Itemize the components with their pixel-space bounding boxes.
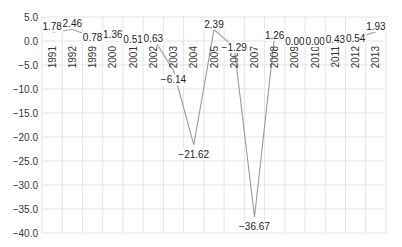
data-label: 1.36 [103, 29, 123, 40]
x-tick-label: 2010 [310, 46, 321, 69]
x-tick-label: 2001 [128, 46, 139, 69]
data-label: −21.62 [178, 149, 209, 160]
x-tick-label: 2002 [148, 46, 159, 69]
data-label: 2.46 [63, 18, 83, 29]
y-axis-ticks: 5.00.0−5.0−10.0−15.0−20.0−25.0−30.0−35.0… [13, 12, 39, 239]
data-label: 0.43 [326, 34, 346, 45]
x-tick-label: 2012 [350, 46, 361, 69]
x-tick-label: 2013 [370, 46, 381, 69]
y-tick-label: −40.0 [13, 228, 39, 239]
x-tick-label: 2009 [289, 46, 300, 69]
x-tick-label: 1992 [67, 46, 78, 69]
x-axis-ticks: 1991199219992000200120022003200420052006… [47, 46, 382, 69]
x-tick-label: 2008 [269, 46, 280, 69]
x-tick-label: 1999 [87, 46, 98, 69]
y-tick-label: −5.0 [18, 60, 38, 71]
data-label: 1.26 [265, 30, 285, 41]
data-label: 0.63 [144, 33, 164, 44]
x-tick-label: 2011 [330, 46, 341, 68]
y-tick-label: −20.0 [13, 132, 39, 143]
y-tick-label: 0.0 [24, 36, 38, 47]
data-label: 0.51 [123, 34, 143, 45]
y-tick-label: −10.0 [13, 84, 39, 95]
data-label: −36.67 [239, 221, 270, 232]
data-label: 1.93 [366, 21, 386, 32]
data-label: 0.54 [346, 33, 366, 44]
x-tick-label: 2003 [168, 46, 179, 69]
data-label: 0.78 [83, 32, 103, 43]
x-tick-label: 2005 [209, 46, 220, 69]
y-tick-label: 5.0 [24, 12, 38, 23]
data-label: −1.29 [222, 42, 248, 53]
x-tick-label: 1991 [47, 46, 58, 69]
x-tick-label: 2000 [107, 46, 118, 69]
x-tick-label: 2004 [188, 46, 199, 69]
y-tick-label: −25.0 [13, 156, 39, 167]
data-label: 1.78 [42, 21, 62, 32]
data-label: 0.00 [285, 36, 305, 47]
y-tick-label: −30.0 [13, 180, 39, 191]
data-label: 2.39 [204, 19, 224, 30]
data-label: 0.00 [305, 36, 325, 47]
y-tick-label: −15.0 [13, 108, 39, 119]
y-tick-label: −35.0 [13, 204, 39, 215]
data-label: −6.14 [161, 74, 187, 85]
line-chart: 5.00.0−5.0−10.0−15.0−20.0−25.0−30.0−35.0… [0, 0, 402, 247]
x-tick-label: 2007 [249, 46, 260, 69]
